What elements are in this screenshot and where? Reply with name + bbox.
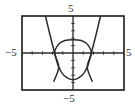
- graph-plot: [0, 0, 135, 106]
